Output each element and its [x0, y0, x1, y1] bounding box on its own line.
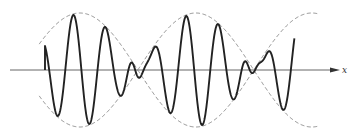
x-axis-label: x: [342, 65, 347, 75]
x-axis-arrowhead: [330, 68, 340, 73]
beat-pattern-figure: x: [0, 0, 349, 137]
